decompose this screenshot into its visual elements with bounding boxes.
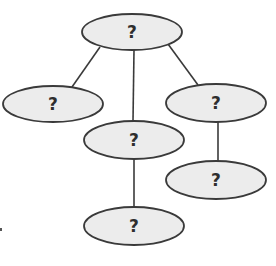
node-bottom: ? — [84, 207, 184, 245]
edge-root-middle — [133, 50, 134, 121]
edge-root-left — [72, 47, 100, 87]
node-root: ? — [82, 14, 182, 50]
node-right: ? — [166, 84, 266, 122]
node-bottom-label: ? — [129, 216, 139, 236]
tree-diagram: ? ? ? ? ? ? — [0, 0, 276, 266]
node-middle: ? — [84, 121, 184, 159]
node-right-child-label: ? — [211, 170, 221, 190]
stray-mark — [0, 228, 2, 231]
edge-root-right — [168, 44, 198, 85]
node-right-child: ? — [166, 161, 266, 199]
node-left: ? — [3, 86, 103, 122]
node-root-label: ? — [127, 22, 137, 42]
node-left-label: ? — [48, 94, 58, 114]
node-right-label: ? — [211, 93, 221, 113]
node-middle-label: ? — [129, 130, 139, 150]
